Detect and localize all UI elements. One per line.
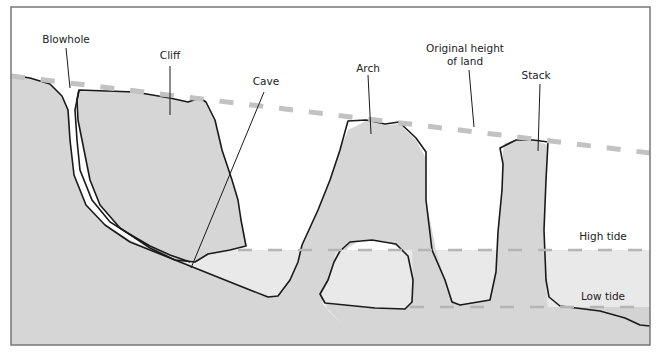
leader-original-height <box>469 70 474 127</box>
leader-blowhole <box>66 48 70 88</box>
coastal-diagram <box>0 0 659 356</box>
label-original-height-line1: Original height <box>426 42 504 55</box>
label-arch: Arch <box>356 62 380 75</box>
label-blowhole: Blowhole <box>42 33 90 46</box>
label-cliff: Cliff <box>160 49 180 62</box>
label-original-height-line2: of land <box>447 55 483 68</box>
label-cave: Cave <box>253 75 279 88</box>
label-high-tide: High tide <box>579 230 627 243</box>
label-low-tide: Low tide <box>581 290 625 303</box>
label-stack: Stack <box>521 69 550 82</box>
